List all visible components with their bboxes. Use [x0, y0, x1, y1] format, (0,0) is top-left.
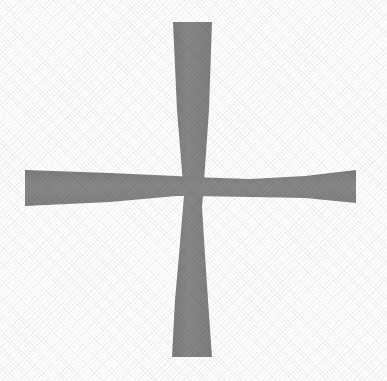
figure-canvas — [0, 0, 387, 381]
cross-symbol-figure — [0, 0, 387, 381]
